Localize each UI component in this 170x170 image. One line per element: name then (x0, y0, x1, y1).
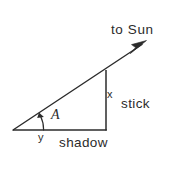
sun-ray-label: to Sun (111, 23, 154, 37)
shadow-label: shadow (59, 136, 108, 150)
geometry-diagram: to Sun x stick y shadow A (0, 0, 170, 170)
arrow-up-right-icon (130, 41, 146, 54)
stick-label: stick (121, 97, 150, 111)
sun-ray-line (13, 45, 142, 131)
angle-arc-arrow-icon (41, 116, 44, 130)
triangle-strokes (13, 41, 147, 131)
stick-length-symbol: x (107, 89, 113, 100)
shadow-length-symbol: y (38, 132, 44, 143)
angle-label: A (51, 108, 60, 122)
